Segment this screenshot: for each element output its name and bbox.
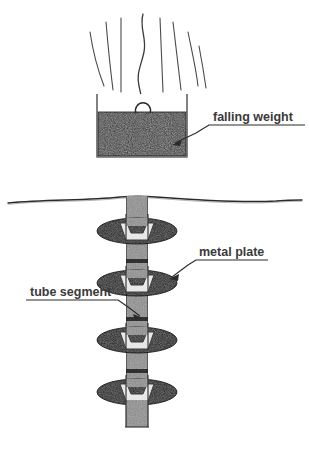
label-metal-plate: metal plate <box>169 245 268 281</box>
metal-plate-label-text: metal plate <box>199 245 264 259</box>
diagram-canvas: falling weight metal plate tube segment <box>0 0 309 450</box>
metal-plate <box>97 323 177 353</box>
tube-bottom-end <box>125 400 149 427</box>
metal-plate <box>97 214 177 244</box>
falling-weight-label-text: falling weight <box>213 110 294 124</box>
ground-line <box>8 196 302 204</box>
motion-speed-lines <box>90 18 206 92</box>
label-falling-weight: falling weight <box>172 110 305 146</box>
falling-weight-tube-diagram: falling weight metal plate tube segment <box>0 0 309 450</box>
wavy-cable <box>138 14 145 103</box>
tube-segment-label-text: tube segment <box>30 285 112 299</box>
falling-weight-block <box>97 94 187 157</box>
